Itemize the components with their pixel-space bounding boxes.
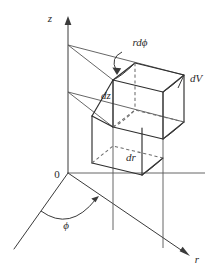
wedge-bottom-outer-arc [142, 158, 163, 175]
dV-label: dV [190, 72, 204, 84]
label-group: z r 0 ϕ rdϕ dz dr dV [47, 12, 204, 265]
phi-angle-label: ϕ [63, 219, 69, 231]
top-face-quad [113, 63, 184, 92]
top-face-outer-arc [163, 75, 184, 92]
phi-arc-arrowhead [91, 196, 99, 202]
figure-canvas: z r 0 ϕ rdϕ dz dr dV [0, 0, 213, 269]
rdphi-arrowhead [112, 68, 121, 75]
phi-arc [41, 199, 96, 219]
cylindrical-volume-element-diagram: z r 0 ϕ rdϕ dz dr dV [0, 0, 213, 269]
r-axis-arrowhead [180, 247, 190, 256]
bottom-face-outer-arc [163, 122, 184, 139]
origin-label: 0 [54, 168, 60, 180]
z-axis [65, 16, 72, 173]
r-axis-line [68, 173, 184, 252]
axis-group [14, 16, 205, 256]
z-axis-arrowhead [65, 16, 72, 25]
rdphi-pointer [112, 52, 122, 75]
r-axis-label: r [195, 253, 200, 265]
rdphi-curved-arrow-path [114, 52, 122, 70]
dz-label: dz [101, 89, 112, 101]
wedge-left-upper-edge [92, 116, 113, 127]
z-axis-label: z [47, 12, 53, 24]
construction-lines-group [68, 45, 184, 248]
volume-element-dV [92, 63, 184, 175]
r-axis [68, 173, 190, 256]
construction-line-top-inner [68, 45, 113, 80]
dr-label: dr [126, 151, 137, 163]
rdphi-label: rdϕ [132, 36, 147, 48]
bottom-face-front-edges [113, 122, 184, 139]
